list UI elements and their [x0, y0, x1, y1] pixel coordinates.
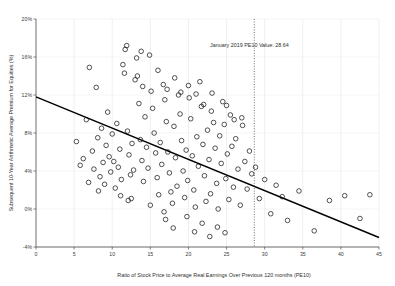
data-points: [74, 43, 372, 239]
x-tick-label: 20: [186, 251, 192, 257]
y-tick-label: -4%: [23, 244, 33, 250]
x-tick-label: 25: [224, 251, 230, 257]
x-tick-label: 35: [300, 251, 306, 257]
y-tick-label: 8%: [25, 130, 33, 136]
x-tick-label: 15: [147, 251, 153, 257]
y-tick-label: 4%: [25, 168, 33, 174]
y-axis-ticks: -4%0%4%8%12%16%20%: [22, 16, 36, 250]
y-tick-label: 0%: [25, 206, 33, 212]
x-tick-label: 5: [73, 251, 76, 257]
x-axis-ticks: 051015202530354045: [35, 247, 382, 257]
x-tick-label: 0: [35, 251, 38, 257]
y-tick-label: 20%: [22, 16, 33, 22]
chart-figure: January 2019 PE10 Value: 28.64 051015202…: [0, 0, 395, 286]
y-tick-label: 12%: [22, 92, 33, 98]
x-tick-label: 45: [376, 251, 382, 257]
x-tick-label: 10: [109, 251, 115, 257]
x-tick-label: 30: [262, 251, 268, 257]
january-2019-pe10-marker: January 2019 PE10 Value: 28.64: [210, 42, 289, 48]
y-axis-title: Subsequent 10-Year Arithmetic Average Pr…: [8, 54, 14, 211]
x-tick-label: 40: [338, 251, 344, 257]
grid-lines: [36, 19, 379, 247]
scatter-plot: January 2019 PE10 Value: 28.64 051015202…: [0, 0, 395, 286]
trendline: [36, 97, 379, 238]
x-axis-title: Ratio of Stock Price to Average Real Ear…: [117, 272, 311, 278]
y-tick-label: 16%: [22, 54, 33, 60]
